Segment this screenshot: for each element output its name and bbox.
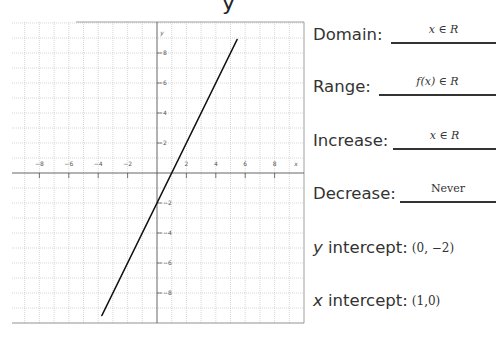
svg-text:6: 6 [243, 160, 247, 167]
svg-text:2: 2 [163, 139, 167, 146]
y-var: y [313, 238, 323, 257]
svg-text:−8: −8 [163, 289, 172, 296]
x-intercept-value: (1,0) [412, 294, 440, 308]
x-var: x [313, 291, 323, 310]
y-intercept-row: y intercept:(0, −2) [313, 235, 496, 259]
svg-text:8: 8 [163, 49, 167, 56]
svg-text:4: 4 [214, 160, 218, 167]
svg-text:y: y [159, 29, 164, 37]
svg-text:2: 2 [184, 160, 188, 167]
increase-label: Increase: [313, 131, 388, 150]
domain-row: Domain: x ∈ R [313, 22, 496, 46]
decrease-value: Never [400, 182, 496, 195]
svg-text:−8: −8 [35, 160, 44, 167]
svg-text:x: x [293, 160, 298, 167]
svg-text:6: 6 [163, 79, 167, 86]
svg-text:−4: −4 [94, 160, 103, 167]
decrease-label: Decrease: [313, 184, 396, 203]
domain-label: Domain: [313, 25, 383, 44]
increase-row: Increase: x ∈ R [313, 128, 496, 152]
svg-text:−4: −4 [163, 229, 172, 236]
decrease-answer-line: Never [400, 181, 496, 203]
grid-lines [12, 22, 304, 323]
decrease-row: Decrease: Never [313, 181, 496, 205]
range-label: Range: [313, 77, 371, 96]
svg-text:8: 8 [273, 160, 277, 167]
svg-text:−6: −6 [163, 259, 172, 266]
domain-answer-line: x ∈ R [391, 22, 496, 44]
svg-text:−6: −6 [64, 160, 73, 167]
x-intercept-row: x intercept:(1,0) [313, 288, 496, 312]
tick-labels: −8−6−4−224688642−2−4−6−8xy [35, 29, 298, 296]
properties-panel: Domain: x ∈ R Range: f(x) ∈ R Increase: … [313, 0, 496, 337]
y-intercept-value: (0, −2) [412, 241, 454, 255]
x-intercept-text: intercept: [323, 291, 408, 310]
range-answer-line: f(x) ∈ R [379, 74, 496, 96]
svg-text:−2: −2 [163, 199, 172, 206]
plotted-line [102, 40, 237, 316]
y-intercept-label: y intercept:(0, −2) [313, 238, 454, 257]
function-graph: −8−6−4−224688642−2−4−6−8xy [0, 0, 310, 337]
range-value: f(x) ∈ R [379, 75, 496, 88]
range-row: Range: f(x) ∈ R [313, 74, 496, 98]
increase-answer-line: x ∈ R [393, 128, 496, 150]
svg-text:4: 4 [163, 109, 167, 116]
y-intercept-text: intercept: [323, 238, 408, 257]
increase-value: x ∈ R [393, 129, 496, 142]
svg-text:−2: −2 [123, 160, 132, 167]
domain-value: x ∈ R [391, 23, 496, 36]
x-intercept-label: x intercept:(1,0) [313, 291, 440, 310]
